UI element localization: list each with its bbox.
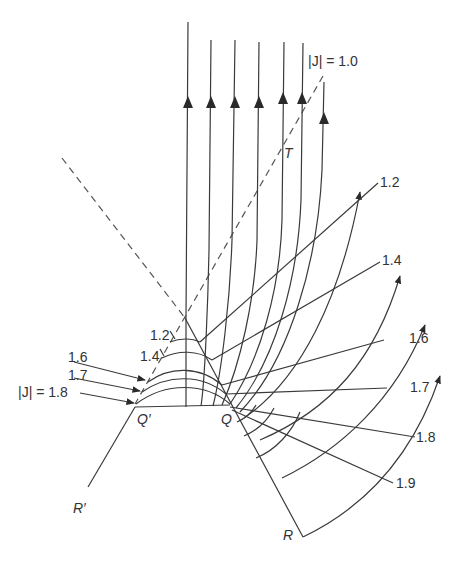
contour-1-4-line [212,262,380,360]
label-j-1-0: |J| = 1.0 [308,53,358,69]
arrow-icon [278,92,288,104]
label-q: Q [221,411,232,427]
label-left-j-1-8: |J| = 1.8 [18,384,68,400]
leader-1-4-tick [160,349,164,356]
label-right-1-4: 1.4 [382,252,402,268]
streamline-1 [186,22,188,407]
contour-1-2-arc [170,339,200,342]
label-right-1-2: 1.2 [380,174,400,190]
label-r: R [283,527,293,543]
arrow-icon [297,92,307,104]
label-right-1-7: 1.7 [410,379,430,395]
label-right-1-6: 1.6 [409,330,429,346]
dashed-boundary-lines [62,76,323,404]
arrow-icon [230,96,240,108]
label-t: T [284,145,294,161]
leader-1-8 [80,393,134,403]
segment-qprime-q [135,405,230,407]
left-dashed-line [62,158,185,318]
current-flow-diagram: |J| = 1.0 T 1.2 1.4 1.6 1.7 1.8 1.9 1.2 … [0,0,455,561]
segment-qprime-rprime [88,407,135,487]
contours [136,183,415,483]
arrow-icon [254,96,264,108]
label-left-1-2: 1.2 [150,327,170,343]
label-r-prime: R′ [73,500,87,516]
streamline-6 [236,43,303,408]
streamline-3 [213,40,235,406]
labels: |J| = 1.0 T 1.2 1.4 1.6 1.7 1.8 1.9 1.2 … [18,53,436,543]
contour-1-7-arc [142,379,226,394]
label-left-1-6: 1.6 [68,349,88,365]
streamlines [186,22,440,537]
contour-1-2-line [200,183,378,342]
label-left-1-7: 1.7 [68,367,88,383]
arrow-icon [206,96,216,108]
arrow-icon [183,96,193,108]
label-right-1-8: 1.8 [416,429,436,445]
arc-inner-3 [256,412,300,458]
arrow-icon [319,112,329,124]
arrowheads [183,92,329,124]
label-left-1-4: 1.4 [140,348,160,364]
streamline-11 [303,376,440,537]
label-right-1-9: 1.9 [396,475,416,491]
label-q-prime: Q′ [137,411,152,427]
